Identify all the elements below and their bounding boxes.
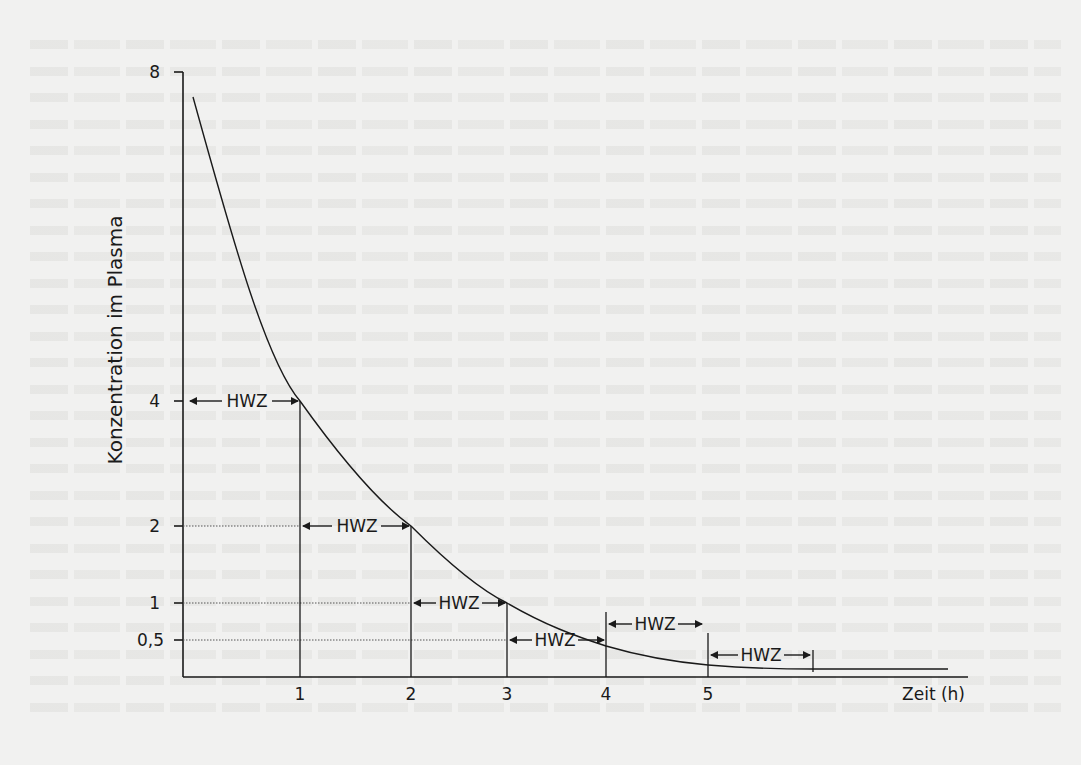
svg-text:HWZ: HWZ (226, 391, 267, 411)
half-life-chart: HWZ HWZ HWZ HWZ HWZ HWZ 8 4 2 1 0,5 1 2 … (0, 0, 1081, 765)
x-axis-label: Zeit (h) (902, 684, 965, 704)
svg-text:8: 8 (149, 62, 160, 82)
svg-text:HWZ: HWZ (336, 516, 377, 536)
svg-text:2: 2 (149, 516, 160, 536)
svg-text:3: 3 (502, 684, 513, 704)
x-tick-labels: 1 2 3 4 5 (295, 684, 714, 704)
hwz-annotations (190, 401, 810, 655)
svg-text:4: 4 (601, 684, 612, 704)
svg-text:1: 1 (295, 684, 306, 704)
svg-text:5: 5 (703, 684, 714, 704)
svg-text:HWZ: HWZ (634, 614, 675, 634)
dotted-reference-lines (183, 526, 507, 640)
svg-text:0,5: 0,5 (137, 630, 164, 650)
concentration-curve (193, 97, 948, 669)
svg-text:HWZ: HWZ (740, 645, 781, 665)
svg-text:HWZ: HWZ (534, 630, 575, 650)
svg-text:4: 4 (149, 391, 160, 411)
svg-text:1: 1 (149, 593, 160, 613)
y-tick-labels: 8 4 2 1 0,5 (137, 62, 164, 650)
axes (174, 72, 968, 677)
y-axis-label: Konzentration im Plasma (103, 216, 127, 465)
svg-text:2: 2 (406, 684, 417, 704)
svg-text:HWZ: HWZ (438, 593, 479, 613)
